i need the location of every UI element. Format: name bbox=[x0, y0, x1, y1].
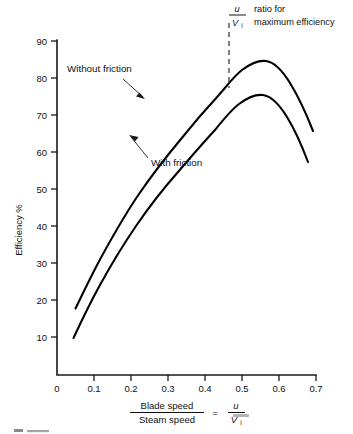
axes-group bbox=[51, 40, 316, 381]
y-tick-label: 90 bbox=[36, 36, 47, 47]
y-tick-label: 40 bbox=[36, 221, 47, 232]
x-tick-labels: 0 0.1 0.2 0.3 0.4 0.5 0.6 0.7 bbox=[54, 383, 322, 394]
x-axis-title-equals: = bbox=[212, 407, 218, 418]
y-tick-label: 80 bbox=[36, 73, 47, 84]
y-tick-label: 50 bbox=[36, 184, 47, 195]
x-axis-ticks bbox=[94, 375, 316, 381]
y-tick-labels: 90 80 70 60 50 40 30 20 10 bbox=[36, 36, 47, 343]
x-tick-label: 0.5 bbox=[235, 383, 248, 394]
annotation-ratio-denominator: V bbox=[232, 18, 239, 28]
max-efficiency-annotation: u V i ratio for maximum efficiency bbox=[229, 4, 335, 29]
x-tick-label: 0.2 bbox=[124, 383, 137, 394]
y-tick-label: 60 bbox=[36, 147, 47, 158]
y-tick-label: 30 bbox=[36, 258, 47, 269]
efficiency-chart: 90 80 70 60 50 40 30 20 10 0 0.1 0.2 0.3… bbox=[0, 0, 353, 434]
y-axis-title: Efficiency % bbox=[13, 204, 24, 256]
annotation-ratio-subscript: i bbox=[241, 22, 243, 29]
annotation-line-2: maximum efficiency bbox=[254, 17, 335, 27]
x-axis-title-denominator: Steam speed bbox=[139, 414, 195, 425]
without-friction-annotation: Without friction bbox=[67, 63, 145, 99]
y-axis-ticks bbox=[51, 41, 57, 337]
x-axis-title-ratio-subscript: i bbox=[240, 419, 242, 426]
x-tick-label: 0 bbox=[54, 383, 59, 394]
with-friction-leader-line bbox=[131, 137, 148, 158]
with-friction-annotation: With friction bbox=[129, 135, 202, 168]
x-axis-title: Blade speed Steam speed = u V i bbox=[130, 400, 245, 426]
with-friction-label: With friction bbox=[151, 157, 202, 168]
curve-with-friction bbox=[74, 95, 309, 338]
y-tick-label: 10 bbox=[36, 332, 47, 343]
without-friction-label: Without friction bbox=[67, 63, 132, 74]
y-tick-label: 70 bbox=[36, 110, 47, 121]
x-tick-label: 0.7 bbox=[309, 383, 322, 394]
annotation-ratio-numerator: u bbox=[234, 4, 239, 14]
figure-container: 90 80 70 60 50 40 30 20 10 0 0.1 0.2 0.3… bbox=[0, 0, 353, 434]
x-tick-label: 0.4 bbox=[198, 383, 211, 394]
x-tick-label: 0.6 bbox=[272, 383, 285, 394]
without-friction-arrowhead bbox=[136, 93, 145, 100]
curve-without-friction bbox=[76, 61, 314, 309]
x-axis-title-ratio-numerator: u bbox=[233, 400, 239, 411]
x-tick-label: 0.3 bbox=[161, 383, 174, 394]
annotation-line-1: ratio for bbox=[254, 4, 285, 14]
x-axis-title-numerator: Blade speed bbox=[141, 400, 194, 411]
y-tick-label: 20 bbox=[36, 295, 47, 306]
x-tick-label: 0.1 bbox=[87, 383, 100, 394]
axis-lines bbox=[57, 40, 316, 375]
